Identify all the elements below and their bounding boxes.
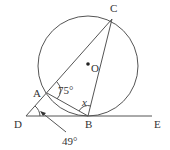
label-o: O xyxy=(91,62,99,74)
angle-label-49: 49° xyxy=(62,135,77,147)
angle-label-75: 75° xyxy=(58,84,73,96)
label-c: C xyxy=(110,2,117,14)
label-a: A xyxy=(33,87,41,99)
label-d: D xyxy=(14,118,22,130)
geometry-diagram: C O A D B E 75° x 49° xyxy=(0,0,170,150)
center-dot xyxy=(86,62,90,66)
secant-line-dc xyxy=(26,19,112,116)
label-b: B xyxy=(85,118,92,130)
pointer-arrow-49 xyxy=(41,112,66,132)
circle-o xyxy=(38,16,138,116)
label-e: E xyxy=(154,118,161,130)
angle-arc-d xyxy=(35,106,40,116)
angle-label-x: x xyxy=(81,96,87,108)
